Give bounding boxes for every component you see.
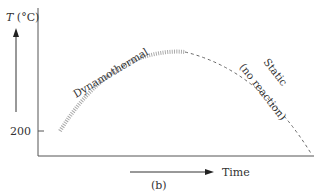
figure-caption: (b) (151, 179, 167, 192)
x-axis-label: Time (222, 166, 250, 179)
x-arrow-head-icon (205, 169, 214, 175)
y-tick-label-200: 200 (10, 125, 31, 138)
y-arrow-head-icon (13, 28, 19, 37)
static-label: Static (261, 56, 290, 88)
dynamothermal-label: Dynamothermal (71, 45, 151, 100)
temperature-time-diagram: T (°C) 200 Time (b) Dynamothermal Static… (0, 0, 315, 192)
y-axis-label: T (°C) (6, 11, 39, 24)
